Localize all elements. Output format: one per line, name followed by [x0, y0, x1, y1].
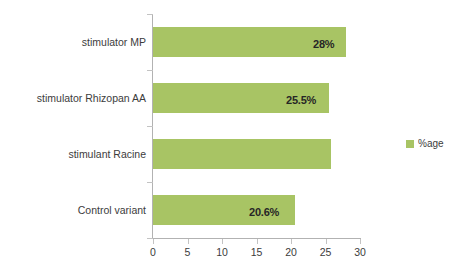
bar-value-label-stimulator-rhizopan-aa: 25.5%	[286, 94, 316, 106]
legend-swatch-icon	[406, 140, 414, 148]
x-axis-tick	[291, 239, 292, 244]
x-axis-tick	[326, 239, 327, 244]
x-axis-tick	[188, 239, 189, 244]
x-axis-tick	[360, 239, 361, 244]
y-axis-label-stimulant-racine: stimulant Racine	[0, 148, 146, 160]
y-axis-label-control-variant: Control variant	[0, 204, 146, 216]
x-axis-tick-label-15: 15	[242, 246, 272, 258]
bar-value-label-stimulator-mp: 28%	[313, 38, 334, 50]
x-axis-tick	[153, 239, 154, 244]
x-axis-tick-label-25: 25	[311, 246, 341, 258]
legend-label-percent-age: %age	[418, 138, 444, 149]
x-axis-tick-label-5: 5	[173, 246, 203, 258]
x-axis-tick-label-0: 0	[138, 246, 168, 258]
y-axis-label-stimulator-rhizopan-aa: stimulator Rhizopan AA	[0, 92, 146, 104]
x-axis-tick-label-30: 30	[345, 246, 375, 258]
y-axis-label-stimulator-mp: stimulator MP	[0, 36, 146, 48]
x-axis-tick	[257, 239, 258, 244]
bar-stimulant-racine[interactable]	[153, 139, 331, 169]
bar-value-label-control-variant: 20.6%	[249, 206, 279, 218]
x-axis-tick	[222, 239, 223, 244]
bar-chart: 28% 25.5% 20.6% stimulator MP stimulator…	[0, 0, 467, 273]
legend[interactable]: %age	[406, 138, 444, 149]
x-axis-tick-label-10: 10	[207, 246, 237, 258]
x-axis-tick-label-20: 20	[276, 246, 306, 258]
